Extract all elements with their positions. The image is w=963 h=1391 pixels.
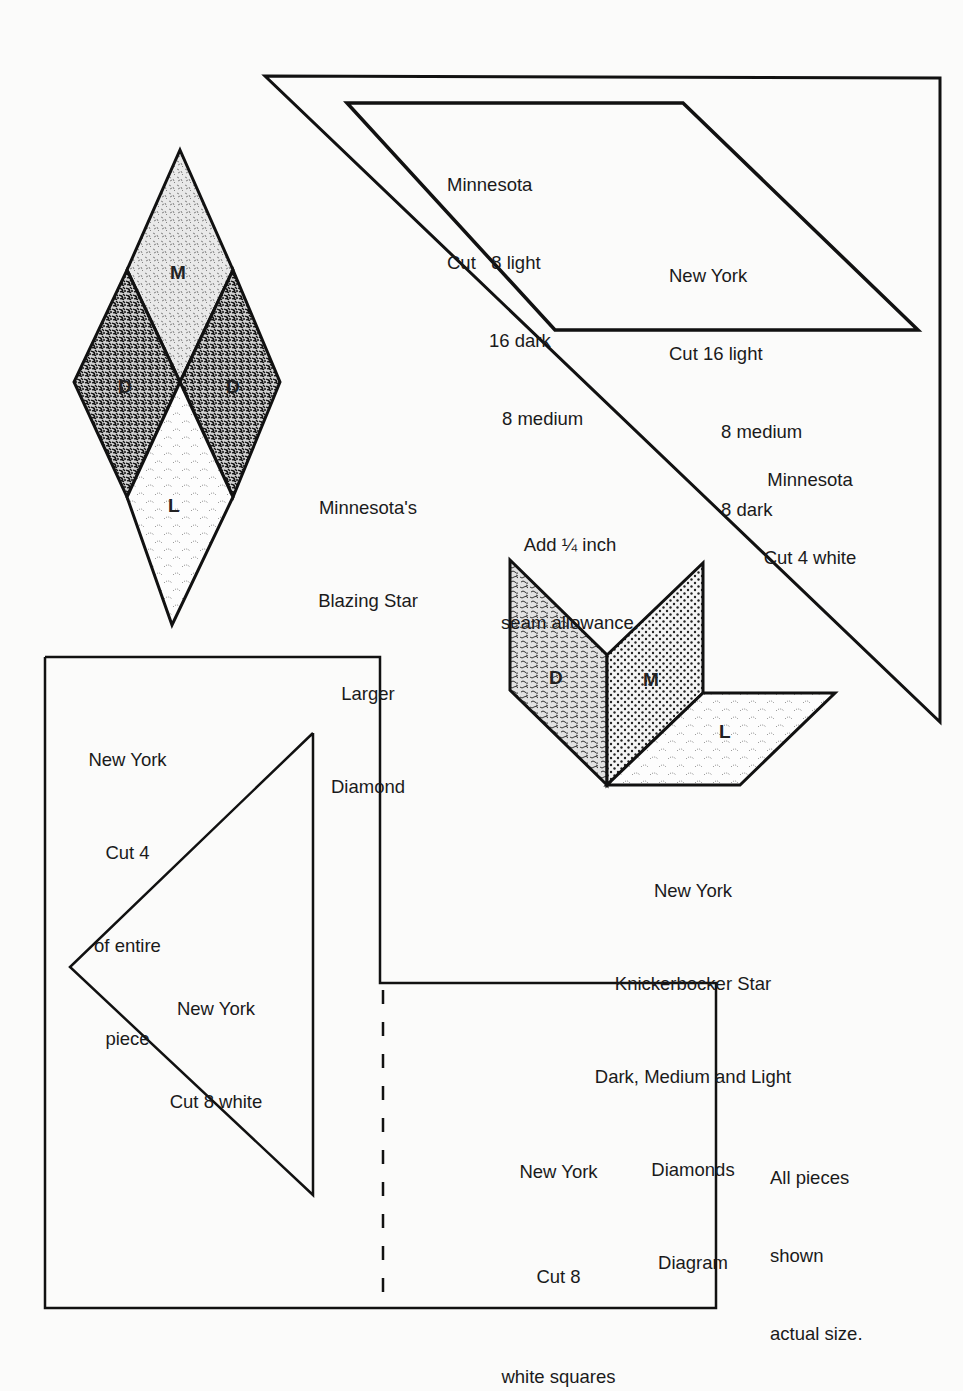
ny-triangle-label: New York Cut 8 white	[146, 931, 286, 1148]
label-line: 16 dark	[447, 328, 583, 354]
label-line: Cut 8	[476, 1259, 641, 1294]
label-line: Minnesota's	[288, 492, 448, 523]
piece-letter-m: M	[170, 262, 186, 283]
label-line: Cut 4 white	[730, 545, 890, 571]
label-line: New York	[146, 993, 286, 1024]
diamond-parallelogram	[347, 103, 918, 330]
label-line: Diamond	[288, 771, 448, 802]
label-line: Knickerbocker Star	[563, 968, 823, 999]
label-line: shown	[770, 1243, 863, 1269]
actual-size-note: All pieces shown actual size.	[770, 1113, 863, 1373]
label-line: Cut 8 white	[146, 1086, 286, 1117]
label-line: Larger	[288, 678, 448, 709]
label-line: white squares	[476, 1359, 641, 1391]
minnesota-white-label: Minnesota Cut 4 white	[730, 415, 890, 597]
seam-allowance-note: Add ¼ inch seam allowance.	[480, 480, 660, 662]
piece-letter-d: D	[226, 376, 240, 397]
piece-letter-d: D	[549, 667, 563, 688]
label-line: Cut 8 light	[447, 250, 583, 276]
label-line: seam allowance.	[480, 610, 660, 636]
label-line: Minnesota	[730, 467, 890, 493]
piece-letter-l: L	[168, 495, 180, 516]
label-line: Cut 4	[65, 837, 190, 868]
blazing-star-caption: Minnesota's Blazing Star Larger Diamond	[288, 430, 448, 833]
blazing-star-diagram: M D D L	[74, 150, 280, 625]
label-line: New York	[65, 744, 190, 775]
label-line: Cut 16 light	[669, 341, 802, 367]
label-line: actual size.	[770, 1321, 863, 1347]
ny-square-label: New York Cut 8 white squares	[476, 1084, 641, 1391]
label-line: New York	[669, 263, 802, 289]
label-line: New York	[563, 875, 823, 906]
piece-letter-l: L	[719, 721, 731, 742]
minnesota-cut-label: Minnesota Cut 8 light 16 dark 8 medium	[447, 120, 583, 458]
label-line: 8 medium	[447, 406, 583, 432]
piece-letter-d: D	[118, 376, 132, 397]
label-line: All pieces	[770, 1165, 863, 1191]
piece-letter-m: M	[643, 669, 659, 690]
label-line: New York	[476, 1154, 641, 1189]
label-line: Add ¼ inch	[480, 532, 660, 558]
label-line: Minnesota	[447, 172, 583, 198]
label-line: Blazing Star	[288, 585, 448, 616]
